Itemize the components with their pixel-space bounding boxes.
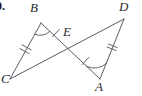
vertex-label-E: E	[63, 25, 71, 38]
tick-marks-segment-BE	[53, 29, 60, 36]
vertex-label-A: A	[95, 80, 103, 93]
vertex-label-C: C	[1, 72, 10, 85]
vertex-label-D: D	[119, 0, 128, 13]
geometry-figure: 0.	[0, 0, 142, 96]
tick-marks-segment-CB	[20, 45, 31, 54]
angle-arc-A	[87, 63, 107, 68]
tick-marks-segment-EA	[82, 57, 89, 64]
vertex-label-B: B	[30, 1, 38, 14]
angle-arc-B	[35, 31, 50, 35]
figure-canvas	[0, 0, 142, 96]
